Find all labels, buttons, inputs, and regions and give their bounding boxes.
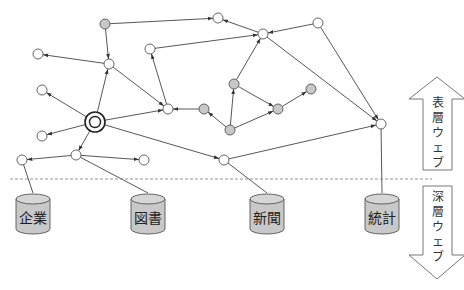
gray-node-n11 xyxy=(229,79,239,89)
edge-start-n19 xyxy=(105,125,220,159)
edge-n12-n13 xyxy=(235,111,274,128)
nodes-layer xyxy=(17,13,386,165)
database-db2: 図書 xyxy=(131,194,165,234)
database-label: 統計 xyxy=(368,210,396,226)
database-label: 図書 xyxy=(134,210,162,226)
deep-web-arrow: 深層ウェブ xyxy=(409,186,464,279)
edge-start-n16 xyxy=(79,131,91,151)
database-db1: 企業 xyxy=(16,194,50,234)
edge-n6-n9 xyxy=(113,67,164,106)
edge-n12-n11 xyxy=(230,89,233,125)
edge-start-n9 xyxy=(105,110,163,120)
edge-start-n15 xyxy=(47,125,86,135)
edge-n4-n20 xyxy=(321,27,379,120)
white-node-n19 xyxy=(219,155,229,165)
edge-n11-n3 xyxy=(237,38,261,79)
white-node-n18 xyxy=(139,155,149,165)
white-node-n6 xyxy=(104,59,114,69)
white-node-n9 xyxy=(163,104,173,114)
edge-start-n8 xyxy=(46,93,86,117)
edge-n1-n6 xyxy=(106,29,109,59)
white-node-n3 xyxy=(258,29,268,39)
deep-web-label-char: 深 xyxy=(432,190,444,204)
gray-node-n12 xyxy=(225,125,235,135)
deep-web-label-char: 層 xyxy=(432,205,444,219)
gray-node-n1 xyxy=(100,19,110,29)
db-link xyxy=(76,155,148,193)
white-node-n8 xyxy=(37,85,47,95)
gray-node-n10 xyxy=(199,104,209,114)
database-label: 企業 xyxy=(19,210,47,226)
white-node-n15 xyxy=(37,131,47,141)
edge-n9-n7 xyxy=(151,54,166,104)
white-node-n5 xyxy=(33,49,43,59)
edge-n3-n2 xyxy=(223,20,259,33)
deep-web-label-char: ェ xyxy=(432,235,444,249)
white-node-n20 xyxy=(376,119,386,129)
edge-n13-n14 xyxy=(282,92,306,107)
edge-n11-n13 xyxy=(238,87,273,107)
start-node xyxy=(85,112,105,132)
edge-n1-n2 xyxy=(110,18,213,23)
edge-n4-n3 xyxy=(268,24,313,33)
surface-web-label-char: ブ xyxy=(432,155,444,170)
gray-node-n14 xyxy=(306,84,316,94)
white-node-n2 xyxy=(213,13,223,23)
database-db4: 統計 xyxy=(365,194,399,234)
edges-layer xyxy=(27,18,378,159)
edge-n16-n18 xyxy=(81,155,139,159)
edge-n6-n5 xyxy=(43,55,104,64)
databases-layer: 企業図書新聞統計 xyxy=(16,194,399,234)
edge-start-n6 xyxy=(97,69,108,112)
white-node-n7 xyxy=(145,44,155,54)
surface-web-label-char: ェ xyxy=(432,141,444,155)
deep-web-label-char: ウ xyxy=(432,220,444,234)
gray-node-n13 xyxy=(273,104,283,114)
surface-web-label-char: 層 xyxy=(432,111,444,125)
white-node-n16 xyxy=(71,150,81,160)
surface-web-label: 表層ウェブ xyxy=(432,96,444,170)
web-graph-diagram: 企業図書新聞統計 表層ウェブ 深層ウェブ xyxy=(0,0,464,290)
deep-web-label: 深層ウェブ xyxy=(432,190,444,264)
white-node-n17 xyxy=(17,155,27,165)
edge-n3-n20 xyxy=(267,37,377,121)
edge-n7-n3 xyxy=(155,35,258,49)
surface-web-label-char: 表 xyxy=(432,96,444,110)
surface-web-arrow: 表層ウェブ xyxy=(409,77,464,170)
surface-web-label-char: ウ xyxy=(432,126,444,140)
edge-n16-n17 xyxy=(27,156,71,160)
edge-n19-n20 xyxy=(229,125,376,159)
db-link xyxy=(224,160,267,193)
db-link xyxy=(381,124,382,193)
white-node-n4 xyxy=(313,18,323,28)
database-label: 新聞 xyxy=(253,210,281,226)
edge-n12-n10 xyxy=(208,112,226,127)
deep-web-label-char: ブ xyxy=(432,249,444,264)
database-db3: 新聞 xyxy=(250,194,284,234)
